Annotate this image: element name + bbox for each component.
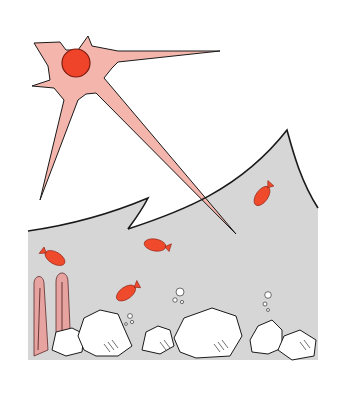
illustration-canvas (0, 0, 343, 395)
sea-and-sun-illustration (0, 0, 343, 395)
sun-core (62, 49, 90, 77)
